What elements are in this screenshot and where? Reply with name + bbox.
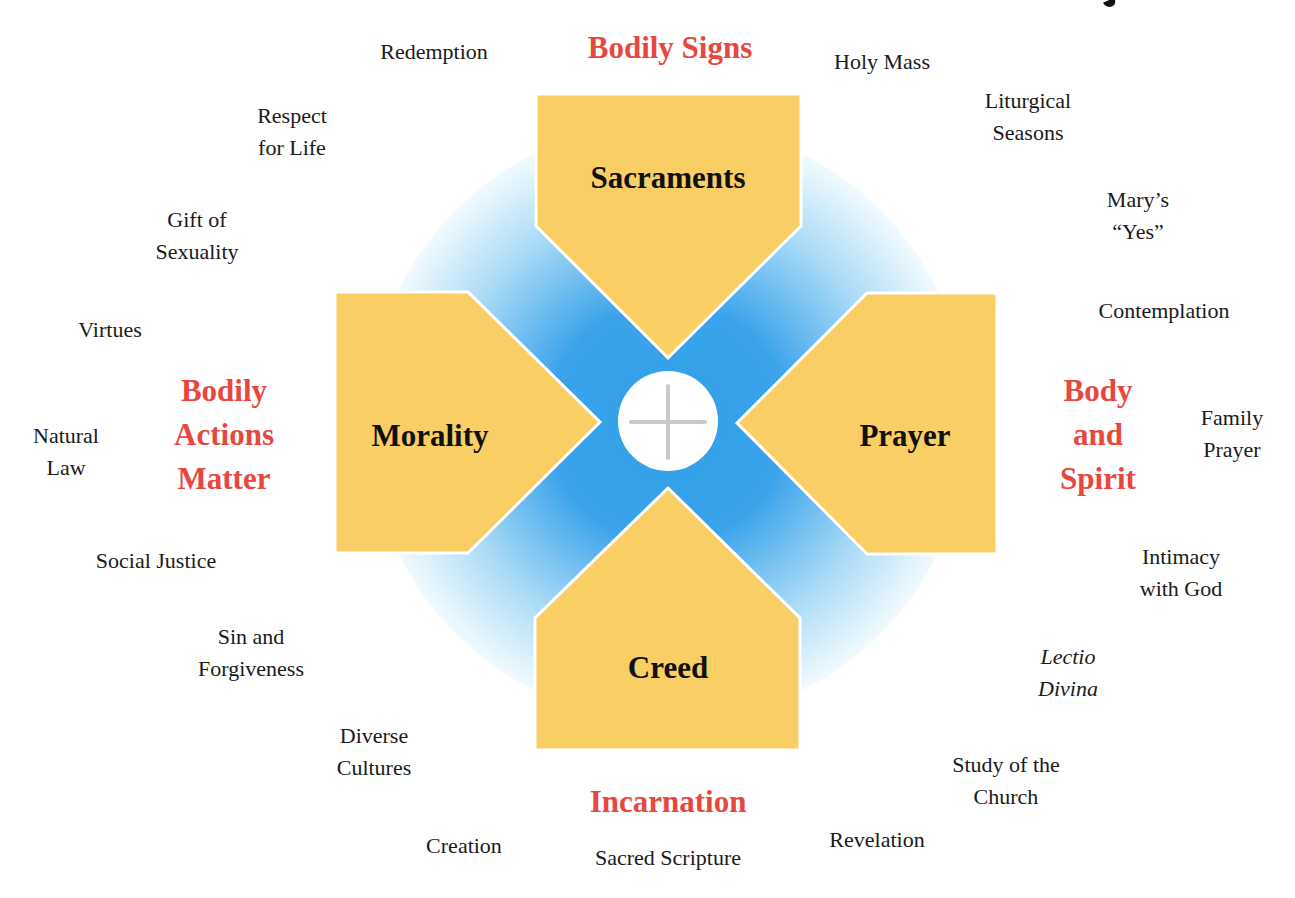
topic-contemplation: Contemplation <box>1099 295 1230 327</box>
topic-revelation: Revelation <box>829 824 924 856</box>
topic-virtues: Virtues <box>78 314 141 346</box>
topic-redemption: Redemption <box>380 36 488 68</box>
theme-body-and-spirit: Body and Spirit <box>1060 369 1136 501</box>
pillar-morality-label: Morality <box>371 418 488 454</box>
topic-social-justice: Social Justice <box>96 545 216 577</box>
theme-bodily-signs: Bodily Signs <box>588 26 753 70</box>
topic-sin-and-forgiveness: Sin and Forgiveness <box>198 621 304 685</box>
diagram-stage: Sacraments Morality Prayer Creed Bodily … <box>0 0 1295 898</box>
topic-respect-for-life: Respect for Life <box>257 100 327 164</box>
topic-creation: Creation <box>426 830 502 862</box>
theme-bodily-actions-matter: Bodily Actions Matter <box>174 369 274 501</box>
topic-gift-of-sexuality: Gift of Sexuality <box>155 204 238 268</box>
topic-study-of-the-church: Study of the Church <box>952 749 1060 813</box>
theme-incarnation: Incarnation <box>590 780 747 824</box>
pillar-sacraments-label: Sacraments <box>591 160 746 196</box>
topic-liturgical-seasons: Liturgical Seasons <box>985 85 1071 149</box>
topic-lectio-divina: Lectio Divina <box>1038 641 1098 705</box>
pillar-prayer-label: Prayer <box>859 418 950 454</box>
topic-family-prayer: Family Prayer <box>1201 402 1263 466</box>
topic-intimacy-with-god: Intimacy with God <box>1140 541 1223 605</box>
topic-holy-mass: Holy Mass <box>834 46 930 78</box>
topic-diverse-cultures: Diverse Cultures <box>337 720 412 784</box>
topic-marys-yes: Mary’s “Yes” <box>1107 184 1169 248</box>
center-emblem <box>618 371 718 471</box>
pillar-creed-label: Creed <box>628 650 708 686</box>
topic-natural-law: Natural Law <box>33 420 99 484</box>
topic-sacred-scripture: Sacred Scripture <box>595 842 741 874</box>
